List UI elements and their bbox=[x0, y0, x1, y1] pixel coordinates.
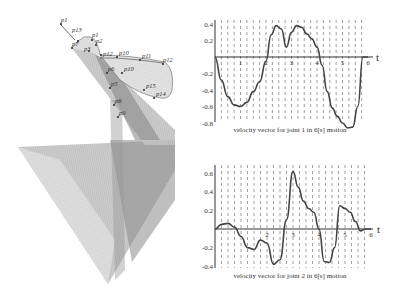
svg-text:5: 5 bbox=[341, 59, 345, 67]
svg-text:p3: p3 bbox=[83, 45, 91, 52]
svg-text:-0.6: -0.6 bbox=[202, 103, 214, 111]
svg-text:6: 6 bbox=[366, 59, 370, 67]
svg-text:p15: p15 bbox=[145, 82, 157, 89]
svg-text:-0.2: -0.2 bbox=[202, 244, 214, 252]
chart2-title: velocity vector for joint 2 in 6[s] moti… bbox=[234, 272, 347, 280]
svg-text:0.6: 0.6 bbox=[204, 170, 213, 178]
svg-text:0.4: 0.4 bbox=[204, 188, 213, 196]
svg-text:p12: p12 bbox=[102, 50, 114, 57]
joint1-velocity-chart: t 0.40.2-0.2-0.4-0.6-0.8 123456 velocity… bbox=[202, 20, 379, 134]
svg-text:p6: p6 bbox=[107, 65, 115, 72]
svg-text:0.2: 0.2 bbox=[204, 37, 213, 45]
svg-text:p10: p10 bbox=[118, 49, 130, 56]
svg-text:-0.4: -0.4 bbox=[202, 263, 214, 271]
svg-text:5: 5 bbox=[343, 231, 347, 239]
svg-text:0.2: 0.2 bbox=[204, 207, 213, 215]
svg-text:2: 2 bbox=[265, 231, 269, 239]
svg-text:p2: p2 bbox=[95, 37, 103, 44]
svg-text:3: 3 bbox=[290, 59, 294, 67]
svg-text:p13: p13 bbox=[71, 26, 83, 33]
x-axis-label: t bbox=[377, 223, 380, 235]
joint2-velocity-chart: t 0.60.40.2-0.2-0.4 23456 velocity vecto… bbox=[202, 165, 380, 280]
svg-text:p5: p5 bbox=[110, 80, 118, 87]
svg-text:p7: p7 bbox=[71, 40, 79, 47]
svg-text:3: 3 bbox=[291, 231, 295, 239]
svg-text:p8: p8 bbox=[114, 97, 122, 104]
svg-text:p10: p10 bbox=[123, 65, 135, 72]
svg-text:6: 6 bbox=[369, 231, 373, 239]
svg-text:p11: p11 bbox=[141, 52, 151, 59]
svg-text:-0.2: -0.2 bbox=[202, 70, 214, 78]
svg-text:1: 1 bbox=[239, 59, 243, 67]
svg-text:0.4: 0.4 bbox=[204, 21, 213, 29]
svg-text:p12: p12 bbox=[162, 56, 174, 63]
swept-surface-diagram: p1 p13 p1 p2 p7 p3 p12 p10 p11 p12 p10 p… bbox=[18, 16, 175, 284]
svg-text:p14: p14 bbox=[155, 90, 167, 97]
svg-text:-0.4: -0.4 bbox=[202, 87, 214, 95]
svg-text:4: 4 bbox=[315, 59, 319, 67]
svg-text:p9: p9 bbox=[118, 109, 126, 116]
chart1-title: velocity vector for joint 1 in 6[s] moti… bbox=[234, 126, 347, 134]
figure: p1 p13 p1 p2 p7 p3 p12 p10 p11 p12 p10 p… bbox=[0, 0, 398, 299]
x-axis-label: t bbox=[376, 51, 379, 63]
svg-text:-0.8: -0.8 bbox=[202, 120, 214, 128]
svg-text:p1: p1 bbox=[60, 16, 68, 23]
